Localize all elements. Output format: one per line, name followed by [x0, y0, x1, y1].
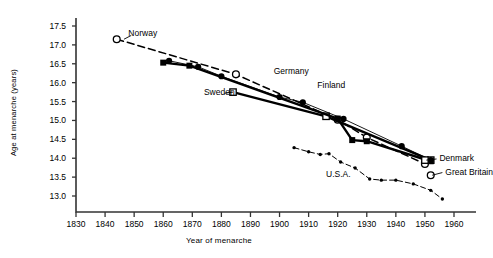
annotation-norway: Norway: [128, 28, 157, 38]
series-u-s-a-: [292, 146, 444, 201]
x-axis-label-text: Year of menarche: [186, 236, 252, 245]
y-tick-label: 13.0: [26, 191, 66, 201]
axis-lines: [76, 18, 476, 212]
y-tick-label: 16.0: [26, 78, 66, 88]
x-tick-label: 1960: [434, 219, 474, 229]
annotation-germany: Germany: [274, 66, 309, 76]
x-axis-label: Year of menarche: [0, 236, 486, 245]
annotation-denmark: Denmark: [439, 153, 473, 163]
y-tick-label: 15.5: [26, 97, 66, 107]
y-tick-label: 14.5: [26, 134, 66, 144]
y-axis-label: Age at menarche (years): [9, 53, 18, 173]
annotation-great-britain: Great Britain: [445, 167, 493, 177]
annotation-u-s-a-: U.S.A.: [326, 169, 351, 179]
y-tick-label: 13.5: [26, 172, 66, 182]
y-tick-label: 15.0: [26, 115, 66, 125]
y-tick-label: 14.0: [26, 153, 66, 163]
annotation-sweden: Sweden: [204, 87, 235, 97]
y-tick-label: 17.0: [26, 40, 66, 50]
y-tick-label: 17.5: [26, 21, 66, 31]
y-tick-label: 16.5: [26, 59, 66, 69]
annotation-finland: Finland: [317, 80, 345, 90]
